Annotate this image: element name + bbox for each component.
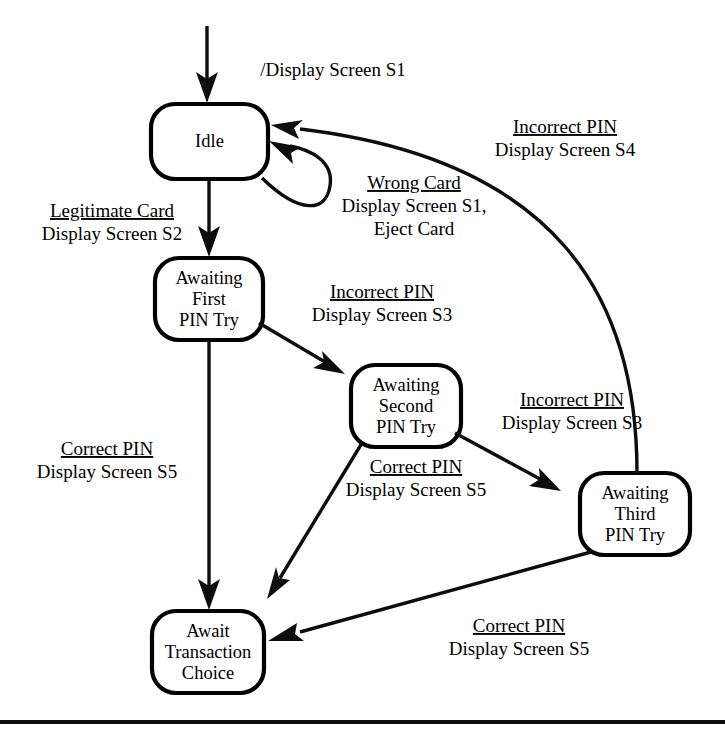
transition-third-to-await-trigger: Correct PIN: [473, 615, 566, 636]
transition-idle-to-first-label: Legitimate Card Display Screen S2: [42, 200, 182, 244]
transition-third-to-idle-action: Display Screen S4: [495, 139, 636, 160]
transition-first-to-second-label: Incorrect PIN Display Screen S3: [312, 281, 452, 325]
transition-third-to-idle-label: Incorrect PIN Display Screen S4: [495, 116, 636, 160]
transition-second-to-await-action: Display Screen S5: [346, 479, 486, 500]
transition-first-to-second-trigger: Incorrect PIN: [330, 281, 434, 302]
transition-first-to-await: [198, 341, 220, 610]
state-await-transaction-choice-label-line-3: Choice: [182, 663, 234, 683]
transition-third-to-await-label: Correct PIN Display Screen S5: [449, 615, 589, 659]
state-idle[interactable]: Idle: [151, 104, 268, 179]
transition-idle-to-first: [198, 180, 220, 257]
state-idle-label: Idle: [195, 131, 224, 151]
transition-third-to-await-action: Display Screen S5: [449, 638, 589, 659]
transition-second-to-third-label: Incorrect PIN Display Screen S3: [502, 389, 642, 433]
state-diagram: /Display Screen S1 Idle Wrong Card Displ…: [0, 0, 725, 732]
state-awaiting-third-pin[interactable]: Awaiting Third PIN Try: [580, 473, 690, 555]
state-awaiting-second-pin-label-line-3: PIN Try: [376, 417, 437, 437]
transition-idle-to-first-trigger: Legitimate Card: [50, 200, 174, 221]
transition-first-to-await-trigger: Correct PIN: [61, 438, 154, 459]
state-awaiting-third-pin-label-line-3: PIN Try: [605, 525, 666, 545]
state-awaiting-third-pin-label-line-2: Third: [614, 504, 656, 524]
state-diagram-container: /Display Screen S1 Idle Wrong Card Displ…: [0, 0, 725, 732]
state-awaiting-second-pin-label-line-1: Awaiting: [372, 375, 439, 395]
state-awaiting-third-pin-label-line-1: Awaiting: [601, 483, 668, 503]
transition-idle-self-loop: [262, 141, 330, 206]
transition-idle-self-trigger: Wrong Card: [367, 172, 461, 193]
transition-first-to-second: [259, 323, 345, 374]
state-awaiting-first-pin-label-line-1: Awaiting: [175, 268, 242, 288]
initial-transition-action: /Display Screen S1: [260, 59, 406, 80]
transition-second-to-await: [267, 443, 362, 599]
transition-second-to-await-label: Correct PIN Display Screen S5: [346, 456, 486, 500]
transition-first-to-await-label: Correct PIN Display Screen S5: [37, 438, 177, 482]
transition-second-to-third-trigger: Incorrect PIN: [520, 389, 624, 410]
transition-first-to-await-action: Display Screen S5: [37, 461, 177, 482]
transition-idle-to-first-action: Display Screen S2: [42, 223, 182, 244]
initial-transition-arrow: [196, 26, 218, 103]
state-await-transaction-choice-label-line-1: Await: [186, 621, 230, 641]
state-awaiting-first-pin[interactable]: Awaiting First PIN Try: [155, 258, 263, 340]
state-awaiting-first-pin-label-line-3: PIN Try: [179, 310, 240, 330]
state-await-transaction-choice[interactable]: Await Transaction Choice: [152, 611, 264, 693]
transition-third-to-idle-trigger: Incorrect PIN: [513, 116, 617, 137]
state-await-transaction-choice-label-line-2: Transaction: [165, 642, 252, 662]
transition-idle-self-loop-label: Wrong Card Display Screen S1, Eject Card: [341, 172, 486, 239]
state-awaiting-first-pin-label-line-2: First: [192, 289, 227, 309]
transition-idle-self-action-2: Eject Card: [374, 218, 455, 239]
transition-first-to-second-action: Display Screen S3: [312, 304, 452, 325]
transition-idle-self-action-1: Display Screen S1,: [341, 195, 486, 216]
state-awaiting-second-pin-label-line-2: Second: [379, 396, 434, 416]
transition-second-to-third-action: Display Screen S3: [502, 412, 642, 433]
transition-second-to-await-trigger: Correct PIN: [370, 456, 463, 477]
state-awaiting-second-pin[interactable]: Awaiting Second PIN Try: [351, 365, 461, 447]
